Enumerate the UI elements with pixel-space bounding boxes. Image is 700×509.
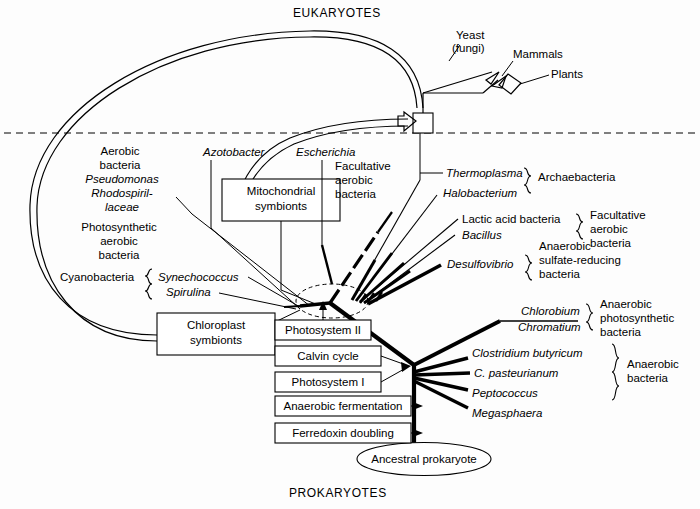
mito-box-connector xyxy=(281,221,318,305)
taxon-peptococcus: Peptococcus xyxy=(472,387,538,399)
left-label-aerobic-1: Aerobic xyxy=(101,145,140,157)
group-label-anphoto-3: bacteria xyxy=(600,326,642,338)
tip-label-mammals: Mammals xyxy=(513,48,563,60)
left-label-spirulina: Spirulina xyxy=(166,286,211,298)
azotobacter-stem-lower xyxy=(211,228,300,309)
taxon-halobacterium: Halobacterium xyxy=(443,187,518,199)
brace-sulfate-reducing xyxy=(525,255,532,280)
left-label-photosynthetic-3: bacteria xyxy=(99,249,141,261)
ancestral-prokaryote-label: Ancestral prokaryote xyxy=(371,453,476,465)
escherichia-stem-lower xyxy=(322,245,332,284)
group-label-sulfate-1: Anaerobic xyxy=(539,240,591,252)
left-label-photosynthetic-2: aerobic xyxy=(100,235,138,247)
branch-mito-upper xyxy=(378,212,392,232)
leader-plants xyxy=(520,75,549,84)
left-label-synechococcus: Synechococcus xyxy=(158,271,239,283)
mid-label-facultative-1: Facultative xyxy=(335,160,391,172)
left-label-cyanobacteria: Cyanobacteria xyxy=(60,271,135,283)
group-label-anphoto-2: photosynthetic xyxy=(600,312,674,324)
tip-label-plants: Plants xyxy=(551,68,583,80)
trait-label-anaerobic-fermentation: Anaerobic fermentation xyxy=(284,400,403,412)
mammals-arrowhead xyxy=(492,76,506,88)
trait-label-photosystem-i: Photosystem I xyxy=(292,376,365,388)
trait-label-photosystem-ii: Photosystem II xyxy=(285,324,361,336)
tip-label-yeast-2: (fungi) xyxy=(452,42,485,54)
brace-cyanobacteria xyxy=(145,269,152,299)
eukaryote-origin-node xyxy=(413,113,433,133)
taxon-c-pasteurianum: C. pasteurianum xyxy=(474,367,559,379)
group-label-archaebacteria: Archaebacteria xyxy=(538,171,616,183)
leader-pseudomonas-rhodospirillaceae xyxy=(176,197,192,214)
brace-anaerobic-bacteria xyxy=(612,344,619,400)
group-label-anaerobic-1: Anaerobic xyxy=(627,358,679,370)
chloroplast-symbionts-line2: symbionts xyxy=(190,334,242,346)
taxon-thermoplasma: Thermoplasma xyxy=(446,167,523,179)
mid-label-facultative-2: aerobic xyxy=(335,174,373,186)
title-eukaryotes: EUKARYOTES xyxy=(293,6,381,20)
branch-c-pasteurianum xyxy=(414,373,470,375)
taxon-chlorobium: Chlorobium xyxy=(521,305,580,317)
group-label-facultative-1: Facultative xyxy=(590,209,646,221)
trait-arrowhead-ferredoxin-doubling xyxy=(413,429,423,437)
trait-arrowhead-anaerobic-fermentation xyxy=(413,402,423,410)
group-label-facultative-3: bacteria xyxy=(590,237,632,249)
title-prokaryotes: PROKARYOTES xyxy=(289,486,387,500)
taxon-bacillus: Bacillus xyxy=(462,229,502,241)
taxon-lactic-acid-bacteria: Lactic acid bacteria xyxy=(462,213,561,225)
branch-yeast xyxy=(423,72,492,93)
group-label-facultative-2: aerobic xyxy=(590,223,628,235)
mid-label-facultative-3: bacteria xyxy=(335,188,377,200)
left-label-pseudomonas: Pseudomonas xyxy=(85,173,159,185)
left-label-rhodospirillaceae-1: Rhodospiril- xyxy=(91,187,153,199)
trait-label-ferredoxin-doubling: Ferredoxin doubling xyxy=(292,427,394,439)
group-label-anaerobic-2: bacteria xyxy=(627,372,669,384)
group-label-anphoto-1: Anaerobic xyxy=(600,298,652,310)
chloroplast-symbionts-line1: Chloroplast xyxy=(187,319,246,331)
mitochondrial-symbionts-line2: symbionts xyxy=(255,200,307,212)
taxon-desulfovibrio: Desulfovibrio xyxy=(447,258,514,270)
taxon-megasphaera: Megasphaera xyxy=(472,407,542,419)
trait-label-calvin-cycle: Calvin cycle xyxy=(297,350,358,362)
mid-label-escherichia: Escherichia xyxy=(296,146,355,158)
brace-facultative-aerobic xyxy=(576,214,583,239)
phylogeny-diagram: EUKARYOTES PROKARYOTES Ancestral prokar xyxy=(0,0,700,509)
plants-diamond xyxy=(499,74,521,94)
taxon-clostridium-butyricum: Clostridium butyricum xyxy=(472,347,583,359)
tip-label-yeast-1: Yeast xyxy=(456,29,485,41)
brace-archaebacteria xyxy=(524,168,531,193)
mid-label-azotobacter: Azotobacter xyxy=(202,146,266,158)
brace-anaerobic-photosynthetic xyxy=(586,304,593,330)
taxon-chromatium: Chromatium xyxy=(518,321,581,333)
mitochondrial-symbionts-line1: Mitochondrial xyxy=(247,185,315,197)
group-label-sulfate-2: sulfate-reducing xyxy=(539,254,621,266)
group-label-sulfate-3: bacteria xyxy=(539,268,581,280)
left-label-photosynthetic-1: Photosynthetic xyxy=(81,221,157,233)
left-label-rhodospirillaceae-2: laceae xyxy=(105,201,139,213)
left-label-aerobic-2: bacteria xyxy=(100,159,142,171)
